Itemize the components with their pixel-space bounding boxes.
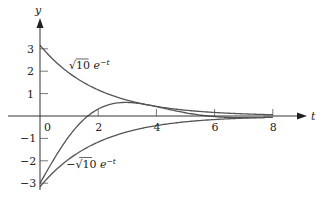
- axes: t y: [8, 4, 316, 190]
- svg-text:√10 e−t: √10 e−t: [69, 58, 110, 72]
- lower-envelope-label: −√10 e−t: [66, 157, 117, 171]
- y-tick-label: 1: [27, 88, 34, 101]
- x-tick-label: 0: [44, 121, 51, 134]
- x-tick-label: 4: [153, 121, 160, 134]
- upper-envelope-curve: [40, 45, 273, 115]
- x-tick-label: 6: [212, 121, 219, 134]
- x-axis-arrow-icon: [297, 113, 307, 120]
- y-tick-label: −2: [20, 155, 36, 168]
- y-tick-label: −3: [20, 177, 36, 190]
- x-tick-label: 8: [270, 121, 277, 134]
- upper-envelope-label: √10 e−t: [69, 58, 110, 72]
- y-axis-label: y: [34, 4, 42, 17]
- y-axis-arrow-icon: [37, 18, 44, 28]
- y-tick-label: −1: [20, 132, 36, 145]
- y-tick-label: 2: [27, 65, 34, 78]
- svg-text:−√10 e−t: −√10 e−t: [66, 157, 117, 171]
- x-axis-label: t: [311, 110, 316, 123]
- x-tick-label: 2: [95, 121, 102, 134]
- chart: t y 02468321−1−2−3 √10 e−t−√10 e−t: [0, 0, 328, 201]
- y-tick-label: 3: [27, 43, 34, 56]
- annotations: √10 e−t−√10 e−t: [66, 58, 117, 171]
